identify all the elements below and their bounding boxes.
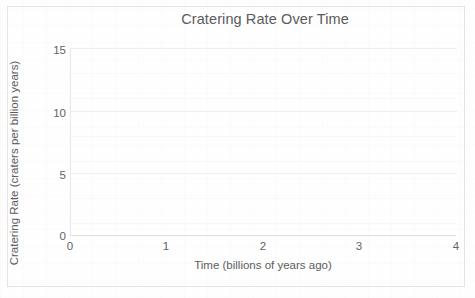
y-tick-label-15: 15 xyxy=(44,44,66,56)
chart-screenshot: Cratering Rate Over Time empty plot area… xyxy=(0,0,475,298)
chart-title: Cratering Rate Over Time xyxy=(70,11,460,27)
plot-area: empty plot area - no data plotted xyxy=(70,48,456,236)
gridline-1 xyxy=(71,223,457,224)
gridline-10 xyxy=(71,111,457,112)
y-axis-title: Cratering Rate (craters per billion year… xyxy=(8,60,20,265)
gridline-13 xyxy=(71,73,457,74)
gridline-3 xyxy=(71,198,457,199)
x-tick-label-4: 4 xyxy=(444,240,468,253)
gridline-6 xyxy=(71,161,457,162)
gridline-11 xyxy=(71,98,457,99)
x-tick-label-3: 3 xyxy=(347,240,371,253)
gridline-5 xyxy=(71,173,457,174)
x-axis-title: Time (billions of years ago) xyxy=(70,259,456,271)
gridline-15 xyxy=(71,48,457,49)
x-axis-ticks: 0 1 2 3 4 xyxy=(0,240,475,254)
x-tick-label-2: 2 xyxy=(251,240,275,253)
x-tick-label-1: 1 xyxy=(154,240,178,253)
y-axis-title-container: Cratering Rate (craters per billion year… xyxy=(0,40,28,285)
x-tick-label-0: 0 xyxy=(58,240,82,253)
y-tick-label-10: 10 xyxy=(44,107,66,119)
gridline-8 xyxy=(71,136,457,137)
y-tick-label-5: 5 xyxy=(44,169,66,181)
